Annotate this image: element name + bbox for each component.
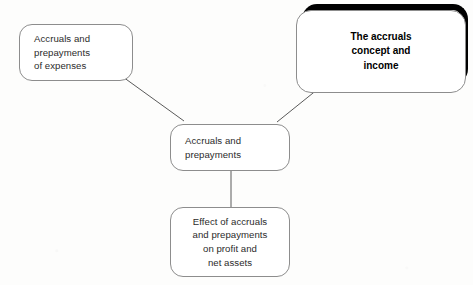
node-label: Accruals and prepayments xyxy=(185,134,289,161)
connector-expenses-to-central xyxy=(123,77,184,121)
mind-map-diagram: Accruals and prepayments of expenses The… xyxy=(0,0,473,285)
node-label: The accruals concept and income xyxy=(297,30,465,74)
node-accruals-and-prepayments-center[interactable]: Accruals and prepayments xyxy=(170,124,290,171)
node-body: The accruals concept and income xyxy=(296,10,466,93)
node-accruals-concept-and-income[interactable]: The accruals concept and income xyxy=(296,4,470,93)
node-label: Accruals and prepayments of expenses xyxy=(34,32,132,73)
node-effect-on-profit-and-net-assets[interactable]: Effect of accruals and prepayments on pr… xyxy=(170,207,290,277)
connector-concept-to-central xyxy=(277,89,318,122)
node-accruals-prepayments-of-expenses[interactable]: Accruals and prepayments of expenses xyxy=(19,24,133,81)
node-label: Effect of accruals and prepayments on pr… xyxy=(171,215,289,269)
